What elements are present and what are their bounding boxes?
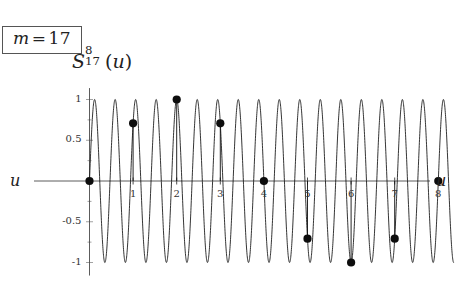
x-tick-label: 1 (121, 188, 145, 199)
x-tick-label: 6 (339, 188, 363, 199)
sample-point-dot (173, 95, 181, 103)
x-tick-label: 5 (296, 188, 320, 199)
y-tick-label: -1 (42, 256, 82, 267)
parameter-value: 17 (48, 28, 71, 48)
x-tick-label: 8 (426, 188, 450, 199)
x-axis-name-left: u (10, 171, 20, 190)
sample-point-dot (260, 177, 268, 185)
x-tick-label: 2 (165, 188, 189, 199)
parameter-equals: = (30, 28, 49, 48)
y-tick-label: -0.5 (42, 215, 82, 226)
parameter-variable: m (13, 28, 30, 48)
plot-title: S817(u) (72, 49, 132, 72)
x-tick-label: 4 (252, 188, 276, 199)
x-tick-label: 3 (208, 188, 232, 199)
title-argument: u (112, 50, 124, 72)
title-close-paren: ) (125, 50, 132, 72)
sample-point-dot (216, 119, 224, 127)
y-tick-label: 1 (42, 93, 82, 104)
sample-point-dot (391, 235, 399, 243)
x-tick-label: 7 (383, 188, 407, 199)
sample-point-dot (129, 119, 137, 127)
title-base-symbol: S (72, 50, 85, 72)
y-tick-label: 0.5 (42, 133, 82, 144)
sample-point-dot (85, 177, 93, 185)
title-indices: 817 (85, 49, 105, 68)
sample-point-dot (303, 235, 311, 243)
figure-root: m=17 S817(u) u u 10.5-0.5-112345678 (0, 0, 462, 294)
sample-point-dot (347, 258, 355, 266)
parameter-box: m=17 (2, 26, 82, 54)
title-subscript: 17 (85, 54, 100, 68)
